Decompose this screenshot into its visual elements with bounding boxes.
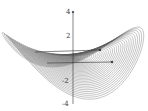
z-axis-arrow-icon — [72, 11, 74, 13]
z-tick-neg2: -2 — [62, 78, 69, 85]
z-tick-2: 2 — [66, 33, 70, 40]
z-tick-neg4: -4 — [62, 101, 69, 108]
saddle-surface-plot — [0, 0, 148, 111]
x-axis-arrow-icon — [99, 49, 101, 51]
y-axis-arrow-icon — [111, 61, 113, 63]
z-tick-4: 4 — [66, 9, 70, 16]
